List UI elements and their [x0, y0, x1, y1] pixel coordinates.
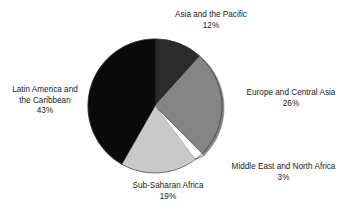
pie-label-lac-percent: 43% [4, 106, 86, 117]
pie-label-latin-america-and-the-caribbean: Latin America and the Caribbean 43% [4, 85, 86, 117]
pie-chart-figure: Asia and the Pacific 12% Europe and Cent… [0, 0, 354, 212]
pie-label-asia-and-the-pacific: Asia and the Pacific 12% [156, 10, 266, 31]
pie-label-asia-name: Asia and the Pacific [175, 10, 247, 19]
pie-label-europe-and-central-asia: Europe and Central Asia 26% [232, 88, 350, 109]
pie-label-middle-east-and-north-africa: Middle East and North Africa 3% [215, 162, 352, 183]
pie-label-mena-percent: 3% [215, 173, 352, 184]
pie-label-mena-name: Middle East and North Africa [232, 162, 336, 171]
pie-slices [88, 39, 224, 173]
pie-label-europe-name: Europe and Central Asia [247, 88, 336, 97]
pie-label-asia-percent: 12% [156, 21, 266, 32]
pie-label-sub-saharan-africa: Sub-Saharan Africa 19% [114, 181, 222, 202]
pie-label-ssa-name: Sub-Saharan Africa [132, 181, 203, 190]
pie-label-europe-percent: 26% [232, 99, 350, 110]
pie-label-ssa-percent: 19% [114, 192, 222, 203]
pie-label-lac-name-line1: Latin America and [12, 85, 78, 94]
pie-label-lac-name-line2: the Caribbean [19, 96, 70, 105]
